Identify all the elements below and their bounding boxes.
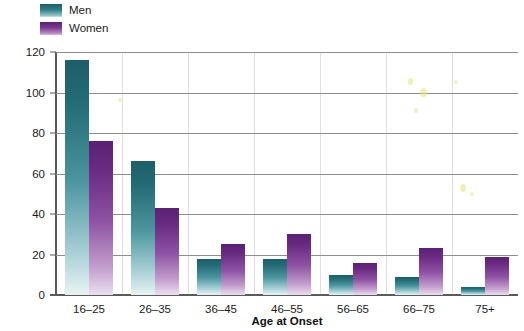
legend-label-men: Men	[69, 4, 91, 17]
bar-group: 46–55	[254, 52, 320, 295]
x-tick-label: 36–45	[188, 303, 254, 315]
bar-men-36–45	[197, 259, 221, 295]
bar-men-16–25	[65, 60, 89, 295]
bar-group: 56–65	[320, 52, 386, 295]
group-separator	[254, 52, 255, 295]
group-separator	[188, 52, 189, 295]
bar-men-56–65	[329, 275, 353, 295]
x-tick-label: 66–75	[386, 303, 452, 315]
bar-group: 26–35	[122, 52, 188, 295]
bar-men-46–55	[263, 259, 287, 295]
bar-group: 75+	[452, 52, 518, 295]
legend-item-women: Women	[40, 21, 108, 36]
bar-men-26–35	[131, 161, 155, 295]
bar-men-75+	[461, 287, 485, 295]
chart-legend: Men Women	[40, 3, 108, 36]
group-separator	[386, 52, 387, 295]
bar-women-46–55	[287, 234, 311, 295]
plot-area: Number of Individuals 020406080100120 16…	[56, 52, 518, 295]
x-tick-label: 75+	[452, 303, 518, 315]
x-tick-label: 46–55	[254, 303, 320, 315]
legend-item-men: Men	[40, 3, 108, 18]
bar-women-75+	[485, 257, 509, 295]
legend-swatch-men-icon	[40, 4, 62, 17]
x-axis-title: Age at Onset	[56, 315, 518, 327]
legend-swatch-women-icon	[40, 22, 62, 35]
bar-women-66–75	[419, 248, 443, 295]
legend-label-women: Women	[69, 22, 108, 35]
group-separator	[320, 52, 321, 295]
x-tick-label: 56–65	[320, 303, 386, 315]
x-tick-label: 16–25	[56, 303, 122, 315]
bar-group: 36–45	[188, 52, 254, 295]
bar-men-66–75	[395, 277, 419, 295]
bar-group: 66–75	[386, 52, 452, 295]
x-tick-label: 26–35	[122, 303, 188, 315]
bar-women-56–65	[353, 263, 377, 295]
bar-group: 16–25	[56, 52, 122, 295]
group-separator	[122, 52, 123, 295]
bar-chart: Men Women Number of Individuals 02040608…	[0, 0, 524, 331]
bar-women-26–35	[155, 208, 179, 295]
bar-women-16–25	[89, 141, 113, 295]
bar-groups: 16–2526–3536–4546–5556–6566–7575+	[56, 52, 518, 295]
bar-women-36–45	[221, 244, 245, 295]
group-separator	[452, 52, 453, 295]
